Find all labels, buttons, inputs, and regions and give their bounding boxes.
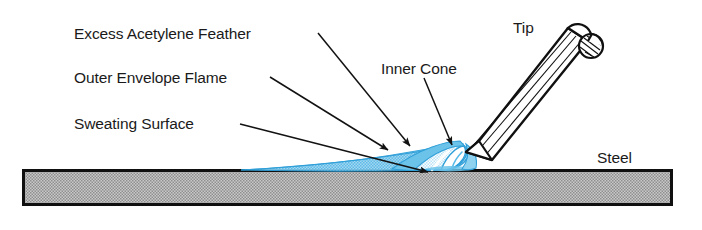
label-outer-envelope-flame: Outer Envelope Flame: [74, 69, 227, 86]
torch-tip: [466, 24, 603, 160]
leader-outer-envelope-flame: [270, 77, 388, 150]
label-steel: Steel: [597, 149, 632, 166]
label-tip: Tip: [513, 19, 534, 36]
leader-inner-cone: [424, 78, 452, 145]
flame-diagram: Excess Acetylene Feather Outer Envelope …: [0, 0, 702, 230]
diagram-canvas: Excess Acetylene Feather Outer Envelope …: [0, 0, 702, 230]
steel-plate: [22, 169, 673, 206]
label-excess-acetylene-feather: Excess Acetylene Feather: [74, 25, 251, 42]
label-sweating-surface: Sweating Surface: [74, 115, 194, 132]
leader-excess-acetylene-feather: [318, 33, 410, 146]
label-inner-cone: Inner Cone: [381, 60, 457, 77]
